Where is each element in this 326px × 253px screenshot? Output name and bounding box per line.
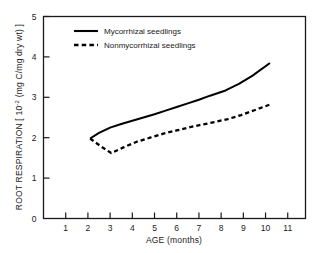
x-tick-label: 3 [108,223,113,233]
y-tick-label: 1 [32,173,37,183]
x-tick-label: 9 [241,223,246,233]
x-tick-label: 1 [63,223,68,233]
x-tick-label: 8 [219,223,224,233]
x-tick-label: 2 [86,223,91,233]
legend-label-nonmycorrhizal: Nonmycorrhizal seedlings [104,41,196,50]
legend-label-mycorrhizal: Mycorrhizal seedlings [104,27,181,36]
y-tick-label: 4 [32,52,37,62]
y-tick-label: 2 [32,133,37,143]
x-tick-label: 7 [197,223,202,233]
x-tick-label: 5 [152,223,157,233]
chart-background [0,0,326,253]
x-tick-label: 11 [283,223,292,233]
y-axis-title: ROOT RESPIRATION [ 10-2 (mg C/mg dry wt)… [14,24,24,210]
y-axis-title-main: ROOT RESPIRATION [ 10 [14,106,24,211]
x-tick-label: 6 [174,223,179,233]
chart-figure: 012345 1234567891011 Mycorrhizal seedlin… [0,0,326,253]
y-tick-label: 0 [32,214,37,224]
x-tick-label: 10 [261,223,271,233]
y-axis-title-end: (mg C/mg dry wt) ] [14,24,24,100]
y-tick-label: 3 [32,92,37,102]
line-chart: 012345 1234567891011 Mycorrhizal seedlin… [0,0,326,253]
x-axis-title: AGE (months) [146,235,202,245]
x-tick-label: 4 [130,223,135,233]
y-tick-label: 5 [32,12,37,22]
